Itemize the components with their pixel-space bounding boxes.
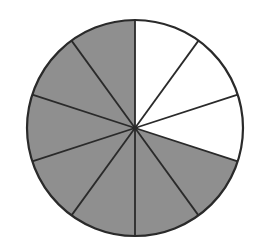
fraction-circle: [0, 0, 275, 251]
center-point: [133, 126, 137, 130]
figure: [0, 0, 275, 251]
